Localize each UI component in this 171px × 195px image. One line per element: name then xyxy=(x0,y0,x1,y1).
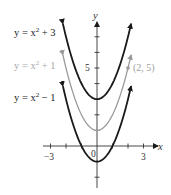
chart: y = x2 + 3 y = x2 + 1 y = x2 − 1 (2, 5) … xyxy=(0,0,171,195)
y-tick-label-5: 5 xyxy=(85,63,90,73)
x-tick-label-3: 3 xyxy=(141,152,146,162)
label-y-x2-plus-3: y = x2 + 3 xyxy=(14,26,56,38)
point-2-5 xyxy=(126,66,130,70)
x-tick-label-neg3: −3 xyxy=(44,152,54,162)
point-label: (2, 5) xyxy=(133,62,155,74)
y-axis xyxy=(95,22,100,188)
x-axis xyxy=(43,144,158,149)
x-axis-label: x xyxy=(157,141,163,152)
x-tick-label-0: 0 xyxy=(91,149,96,159)
label-y-x2-plus-1: y = x2 + 1 xyxy=(14,59,56,71)
y-axis-label: y xyxy=(92,10,98,21)
label-y-x2-minus-1: y = x2 − 1 xyxy=(14,91,56,103)
